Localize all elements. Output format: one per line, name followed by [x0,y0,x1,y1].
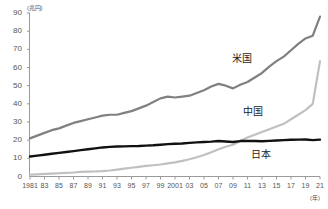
series-label-0: 米国 [232,50,252,65]
gdp-comparison-chart: (兆円) 1020304050607080900 198183858789919… [0,0,328,209]
data-series-group [30,17,320,175]
x-axis-ticks [30,177,320,180]
plot-area [0,0,328,209]
series-label-1: 中国 [243,103,263,118]
series-line-2 [30,139,320,156]
series-line-0 [30,17,320,139]
series-line-1 [30,61,320,175]
series-label-2: 日本 [251,146,271,161]
